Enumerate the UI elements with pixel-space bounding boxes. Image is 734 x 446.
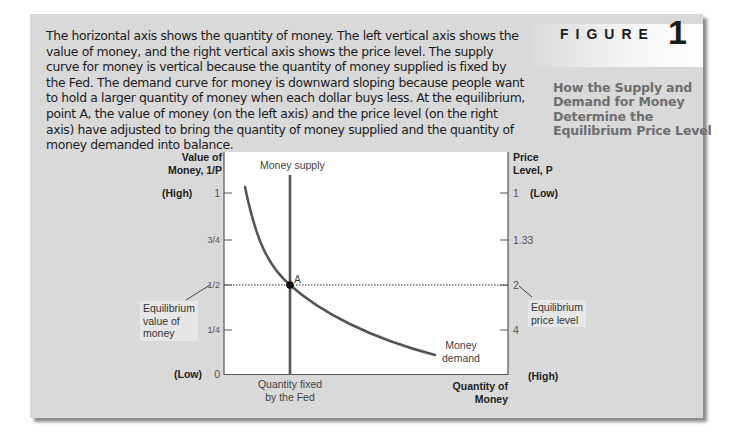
left-tick-0: 0 [196, 368, 220, 380]
left-tick-1-2: 1/2 [196, 279, 220, 291]
right-axis-title-line2: Level, P [513, 164, 553, 176]
chart [0, 0, 734, 446]
left-axis-title-line1: Value of [140, 151, 222, 163]
left-axis-title-line2: Money, 1/P [140, 164, 222, 176]
left-tick-1: 1 [196, 187, 220, 199]
equilibrium-point [286, 281, 294, 289]
left-high-label: (High) [162, 187, 192, 199]
right-tick-1: 1 [513, 187, 519, 199]
money-supply-label: Money supply [260, 159, 325, 171]
money-demand-label-line1: Money [436, 339, 486, 351]
left-tick-1-4: 1/4 [196, 324, 220, 336]
right-low-label: (Low) [530, 187, 558, 199]
quantity-fixed-label-line2: by the Fed [245, 391, 335, 403]
right-tick-4: 4 [513, 324, 519, 336]
right-tick-2: 2 [513, 279, 519, 291]
eq-value-label: Equilibrium value of money [140, 301, 198, 341]
left-tick-3-4: 3/4 [196, 234, 220, 246]
money-demand-label-line2: demand [436, 352, 486, 364]
quantity-fixed-label-line1: Quantity fixed [245, 378, 335, 390]
right-tick-1-33: 1.33 [513, 234, 533, 246]
right-axis-title-line1: Price [513, 151, 539, 163]
point-a-label: A [294, 273, 301, 285]
eq-price-leader [519, 286, 532, 297]
eq-price-label: Equilibrium price level [528, 300, 586, 327]
x-axis-title-line1: Quantity of [420, 380, 508, 392]
page: The horizontal axis shows the quantity o… [0, 0, 734, 446]
right-high-label: (High) [528, 370, 558, 382]
x-axis-title-line2: Money [420, 393, 508, 405]
